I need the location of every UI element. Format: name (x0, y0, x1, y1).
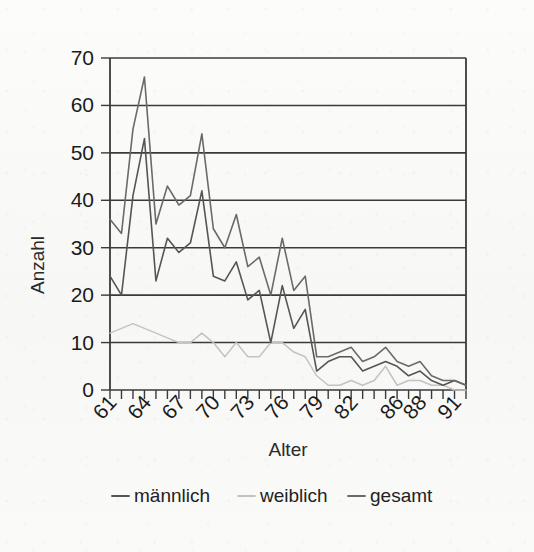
x-tick-label-76: 76 (260, 391, 293, 424)
y-axis-tick-labels: 010203040506070 (71, 46, 94, 401)
y-tick-label-10: 10 (71, 331, 94, 354)
x-tick-label-64: 64 (123, 390, 156, 423)
line-chart: 010203040506070 6164677073767982868891 A… (0, 0, 534, 552)
y-tick-label-60: 60 (71, 93, 94, 116)
y-tick-label-70: 70 (71, 46, 94, 69)
series-line-weiblich (110, 324, 466, 390)
x-tick-label-82: 82 (329, 391, 362, 424)
plot-frame (110, 58, 466, 390)
x-tick-label-67: 67 (157, 391, 190, 424)
x-tick-label-73: 73 (226, 391, 259, 424)
y-axis-title: Anzahl (27, 236, 48, 294)
x-axis-title: Alter (268, 439, 308, 460)
chart-figure: 010203040506070 6164677073767982868891 A… (0, 0, 534, 552)
x-tick-label-91: 91 (433, 391, 466, 424)
x-tick-label-88: 88 (398, 391, 431, 424)
y-tick-label-20: 20 (71, 283, 94, 306)
x-tick-label-70: 70 (191, 391, 224, 424)
y-tick-label-40: 40 (71, 188, 94, 211)
x-tick-label-79: 79 (295, 391, 328, 424)
gridlines-group (110, 58, 466, 390)
series-line-gesamt (110, 77, 466, 385)
legend-label-gesamt: gesamt (370, 485, 433, 506)
y-tick-label-50: 50 (71, 141, 94, 164)
y-tick-label-0: 0 (82, 378, 94, 401)
chart-legend: männlichweiblichgesamt (112, 485, 433, 506)
y-axis-tickmarks (101, 58, 110, 390)
legend-label-männlich: männlich (134, 485, 210, 506)
legend-label-weiblich: weiblich (259, 485, 328, 506)
y-tick-label-30: 30 (71, 236, 94, 259)
